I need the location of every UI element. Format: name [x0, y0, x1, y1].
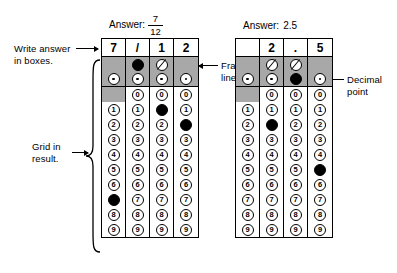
digit-bubble-8[interactable]: 8 — [242, 209, 254, 221]
digit-cell[interactable]: 4 — [150, 147, 174, 162]
digit-bubble-4[interactable]: 4 — [290, 149, 302, 161]
answer-box[interactable]: 1 — [150, 39, 174, 57]
fraction-line-bubble[interactable] — [290, 59, 302, 71]
digit-bubble-7[interactable]: 7 — [290, 194, 302, 206]
digit-cell[interactable]: 0 — [126, 87, 150, 102]
digit-cell[interactable]: 6 — [126, 177, 150, 192]
fraction-line-bubble[interactable] — [156, 59, 168, 71]
digit-cell[interactable]: 1 — [126, 102, 150, 117]
digit-bubble-7[interactable]: 7 — [132, 194, 144, 206]
digit-cell[interactable]: 7 — [126, 192, 150, 207]
digit-bubble-6[interactable]: 6 — [242, 179, 254, 191]
digit-cell[interactable]: 2 — [308, 117, 332, 132]
digit-bubble-1[interactable]: 1 — [290, 104, 302, 116]
digit-bubble-1[interactable]: 1 — [266, 104, 278, 116]
digit-bubble-5[interactable]: 5 — [156, 164, 168, 176]
digit-bubble-8[interactable]: 8 — [266, 209, 278, 221]
digit-cell[interactable]: 5 — [174, 162, 198, 177]
digit-bubble-9[interactable]: 9 — [242, 224, 254, 236]
decimal-point-cell[interactable] — [174, 72, 198, 87]
answer-box[interactable]: 7 — [102, 39, 126, 57]
digit-cell[interactable]: 4 — [126, 147, 150, 162]
digit-cell[interactable]: 8 — [260, 207, 284, 222]
digit-bubble-4[interactable]: 4 — [266, 149, 278, 161]
digit-bubble-4[interactable]: 4 — [314, 149, 326, 161]
digit-cell[interactable]: 2 — [284, 117, 308, 132]
digit-cell[interactable]: 6 — [150, 177, 174, 192]
digit-bubble-3[interactable]: 3 — [290, 134, 302, 146]
digit-bubble-5[interactable]: 5 — [266, 164, 278, 176]
digit-cell[interactable]: 6 — [308, 177, 332, 192]
digit-bubble-5[interactable]: 5 — [132, 164, 144, 176]
digit-cell[interactable]: 2 — [236, 117, 260, 132]
fraction-line-cell[interactable] — [150, 57, 174, 72]
digit-bubble-2[interactable]: 2 — [314, 119, 326, 131]
decimal-point-cell[interactable] — [150, 72, 174, 87]
digit-bubble-4[interactable]: 4 — [156, 149, 168, 161]
digit-cell[interactable]: 0 — [260, 87, 284, 102]
digit-cell[interactable]: 7 — [284, 192, 308, 207]
digit-bubble-1[interactable]: 1 — [314, 104, 326, 116]
digit-bubble-2[interactable]: 2 — [132, 119, 144, 131]
answer-box[interactable]: / — [126, 39, 150, 57]
fraction-line-bubble[interactable] — [132, 59, 144, 71]
digit-cell[interactable]: 9 — [126, 222, 150, 237]
decimal-point-bubble[interactable] — [108, 73, 120, 85]
digit-bubble-1[interactable]: 1 — [108, 104, 120, 116]
answer-box[interactable] — [236, 39, 260, 57]
digit-cell[interactable]: 4 — [308, 147, 332, 162]
fraction-line-cell[interactable] — [260, 57, 284, 72]
decimal-point-cell[interactable] — [126, 72, 150, 87]
digit-bubble-5[interactable]: 5 — [108, 164, 120, 176]
digit-bubble-4[interactable]: 4 — [132, 149, 144, 161]
digit-cell[interactable]: 5 — [102, 162, 126, 177]
digit-bubble-8[interactable]: 8 — [156, 209, 168, 221]
digit-bubble-9[interactable]: 9 — [290, 224, 302, 236]
digit-bubble-4[interactable]: 4 — [108, 149, 120, 161]
answer-grid-fraction[interactable]: 7/12000111122223333444455556666777788889… — [101, 38, 199, 238]
digit-bubble-9[interactable]: 9 — [108, 224, 120, 236]
digit-cell[interactable]: 3 — [308, 132, 332, 147]
digit-cell[interactable]: 6 — [102, 177, 126, 192]
digit-cell[interactable]: 8 — [150, 207, 174, 222]
digit-bubble-7[interactable]: 7 — [266, 194, 278, 206]
digit-cell[interactable]: 7 — [308, 192, 332, 207]
digit-bubble-8[interactable]: 8 — [314, 209, 326, 221]
digit-bubble-6[interactable]: 6 — [314, 179, 326, 191]
digit-cell[interactable]: 6 — [284, 177, 308, 192]
digit-cell[interactable]: 3 — [236, 132, 260, 147]
digit-cell[interactable]: 7 — [102, 192, 126, 207]
digit-bubble-0[interactable]: 0 — [132, 89, 144, 101]
digit-cell[interactable]: 9 — [284, 222, 308, 237]
digit-cell[interactable]: 1 — [260, 102, 284, 117]
digit-cell[interactable]: 9 — [236, 222, 260, 237]
digit-bubble-7[interactable]: 7 — [180, 194, 192, 206]
digit-cell[interactable]: 9 — [102, 222, 126, 237]
digit-cell[interactable]: 3 — [126, 132, 150, 147]
digit-bubble-7[interactable]: 7 — [314, 194, 326, 206]
digit-cell[interactable]: 4 — [284, 147, 308, 162]
digit-cell[interactable]: 4 — [102, 147, 126, 162]
digit-bubble-7[interactable]: 7 — [156, 194, 168, 206]
digit-bubble-4[interactable]: 4 — [242, 149, 254, 161]
digit-bubble-5[interactable]: 5 — [314, 164, 326, 176]
digit-cell[interactable]: 2 — [174, 117, 198, 132]
digit-cell[interactable]: 6 — [260, 177, 284, 192]
digit-bubble-2[interactable]: 2 — [108, 119, 120, 131]
decimal-point-bubble[interactable] — [314, 73, 326, 85]
digit-cell[interactable]: 7 — [150, 192, 174, 207]
decimal-point-bubble[interactable] — [290, 73, 302, 85]
digit-bubble-6[interactable]: 6 — [266, 179, 278, 191]
digit-bubble-6[interactable]: 6 — [180, 179, 192, 191]
digit-cell[interactable]: 3 — [260, 132, 284, 147]
digit-cell[interactable]: 8 — [174, 207, 198, 222]
digit-cell[interactable]: 2 — [150, 117, 174, 132]
digit-bubble-3[interactable]: 3 — [242, 134, 254, 146]
digit-cell[interactable]: 5 — [236, 162, 260, 177]
digit-cell[interactable]: 6 — [236, 177, 260, 192]
digit-bubble-9[interactable]: 9 — [314, 224, 326, 236]
digit-cell[interactable]: 0 — [308, 87, 332, 102]
digit-bubble-6[interactable]: 6 — [132, 179, 144, 191]
digit-cell[interactable]: 7 — [236, 192, 260, 207]
fraction-line-bubble[interactable] — [266, 59, 278, 71]
